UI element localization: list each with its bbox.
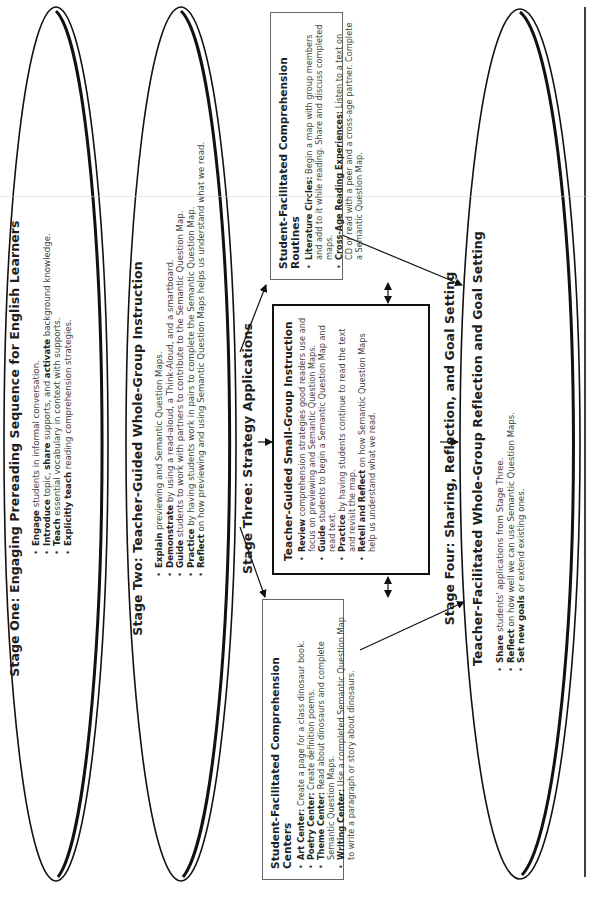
stage-two-list: Explain previewing and Semantic Question… xyxy=(154,57,207,577)
stage-four-item: Share students' applications from Stage … xyxy=(495,272,506,672)
stage-one-item: Explicitly teach reading comprehension s… xyxy=(63,135,74,555)
small-group-item: Practice by having students continue to … xyxy=(337,314,357,561)
stage-one-item: Introduce topic, share supports, and act… xyxy=(42,135,53,555)
small-group-box: Teacher-Guided Small-Group Instruction R… xyxy=(272,304,430,575)
comprehension-centers-title: Student-Facilitated Comprehension Center… xyxy=(269,608,293,869)
stage-two-item: Explain previewing and Semantic Question… xyxy=(154,57,165,577)
stage-two-item: Reflect on how previewing and using Sema… xyxy=(196,57,207,577)
centers-item: Theme Center: Read about dinosaurs and c… xyxy=(316,608,336,869)
centers-item: Writing Center: Use a completed Semantic… xyxy=(336,608,356,869)
small-group-item: Guide students to begin a Semantic Quest… xyxy=(317,314,337,561)
routines-item: Cross-Age Reading Experiences: Listen to… xyxy=(334,21,364,269)
paper-fold-line xyxy=(0,196,589,197)
stage-two-item: Demonstrate by using a read-aloud, a Thi… xyxy=(165,57,176,577)
stage-four-item: Set new goals or extend existing ones. xyxy=(516,272,527,672)
diagram-canvas: Stage One: Engaging Prereading Sequence … xyxy=(0,0,589,897)
stage-three-title: Stage Three: Strategy Applications xyxy=(240,0,255,897)
small-group-title: Teacher-Guided Small-Group Instruction xyxy=(282,314,294,561)
stage-one-item: Teach essential vocabulary in context wi… xyxy=(52,135,63,555)
stage-four-item: Reflect on how well we can use Semantic … xyxy=(506,272,517,672)
centers-item: Art Center: Create a page for a class di… xyxy=(296,608,306,869)
stage-four-title: Stage Four: Sharing, Reflection, and Goa… xyxy=(442,0,457,897)
stage-one-item: Engage students in informal conversation… xyxy=(31,135,42,555)
small-group-item: Review comprehension strategies good rea… xyxy=(297,314,317,561)
comprehension-routines-title: Student-Facilitated Comprehension Routin… xyxy=(277,21,301,269)
small-group-item: Retell and Reflect on how Semantic Quest… xyxy=(357,314,377,561)
stage-one-title: Stage One: Engaging Prereading Sequence … xyxy=(7,0,22,897)
stage-one-list: Engage students in informal conversation… xyxy=(31,135,73,555)
stage-four-subtitle: Teacher-Facilitated Whole-Group Reflecti… xyxy=(470,0,485,897)
routines-item: Literature Circles: Begin a map with gro… xyxy=(304,21,334,269)
stage-two-item: Guide students to work with partners to … xyxy=(175,57,186,577)
comprehension-centers-list: Art Center: Create a page for a class di… xyxy=(296,608,356,869)
comprehension-routines-list: Literature Circles: Begin a map with gro… xyxy=(304,21,364,269)
stage-two-title: Stage Two: Teacher-Guided Whole-Group In… xyxy=(130,0,145,897)
stage-two-item: Practice by having students work in pair… xyxy=(186,57,197,577)
stage-four-list: Share students' applications from Stage … xyxy=(495,272,527,672)
comprehension-centers-box: Student-Facilitated Comprehension Center… xyxy=(262,599,344,880)
comprehension-routines-box: Student-Facilitated Comprehension Routin… xyxy=(270,12,343,280)
small-group-list: Review comprehension strategies good rea… xyxy=(297,314,377,561)
centers-item: Poetry Center: Create definition poems. xyxy=(306,608,316,869)
